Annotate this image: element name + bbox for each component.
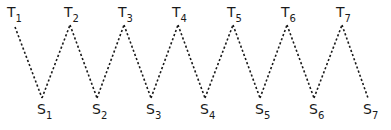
top-node-label-t2: T2 bbox=[63, 4, 79, 24]
dotted-edges bbox=[15, 25, 368, 98]
edge-line bbox=[151, 25, 178, 98]
top-node-label-t1: T1 bbox=[6, 4, 22, 24]
edge-line bbox=[314, 25, 342, 98]
edge-line bbox=[97, 25, 124, 98]
edge-line bbox=[15, 27, 42, 98]
top-node-label-t5: T5 bbox=[226, 4, 242, 24]
top-node-label-t6: T6 bbox=[280, 4, 296, 24]
top-node-label-t7: T7 bbox=[335, 4, 351, 24]
bottom-node-label-s2: S2 bbox=[92, 101, 107, 121]
top-node-label-t3: T3 bbox=[117, 4, 133, 24]
top-node-label-t4: T4 bbox=[171, 4, 187, 24]
edge-line bbox=[42, 25, 70, 98]
bottom-node-label-s1: S1 bbox=[37, 101, 52, 121]
edge-line bbox=[342, 25, 368, 98]
edge-line bbox=[205, 25, 233, 98]
zigzag-diagram: T1T2T3T4T5T6T7S1S2S3S4S5S6S7 bbox=[0, 0, 391, 130]
edge-line bbox=[70, 25, 97, 98]
bottom-node-label-s3: S3 bbox=[146, 101, 161, 121]
bottom-node-label-s5: S5 bbox=[255, 101, 270, 121]
edge-line bbox=[178, 25, 205, 98]
bottom-node-label-s7: S7 bbox=[363, 101, 378, 121]
edge-line bbox=[260, 25, 287, 98]
edge-line bbox=[287, 25, 314, 98]
edge-line bbox=[233, 25, 260, 98]
bottom-node-label-s6: S6 bbox=[309, 101, 324, 121]
bottom-node-label-s4: S4 bbox=[200, 101, 215, 121]
edge-line bbox=[124, 25, 151, 98]
